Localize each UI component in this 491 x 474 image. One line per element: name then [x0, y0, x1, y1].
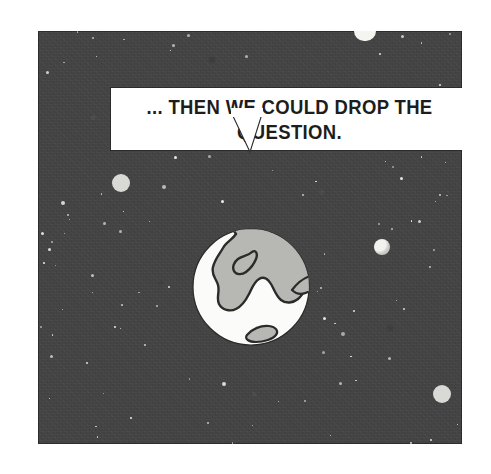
star [341, 332, 345, 336]
star [40, 326, 42, 328]
star [49, 398, 50, 399]
star [121, 304, 123, 306]
star [221, 200, 224, 203]
star [149, 221, 150, 222]
star [388, 357, 391, 360]
star [91, 274, 94, 277]
star [378, 223, 380, 225]
star [162, 185, 166, 189]
planet-lower-right [433, 385, 451, 403]
star [433, 249, 435, 251]
star [379, 53, 381, 55]
star [457, 424, 458, 425]
star [401, 35, 404, 38]
star [232, 442, 233, 443]
star [123, 211, 124, 212]
star [439, 194, 441, 196]
speech-balloon: ... THEN WE COULD DROP THE QUESTION. [110, 87, 462, 151]
earth-globe [192, 228, 310, 346]
star [315, 181, 316, 182]
star [119, 230, 122, 233]
star [429, 266, 431, 268]
star [168, 286, 170, 288]
star [95, 426, 96, 427]
star [334, 323, 335, 324]
star [130, 417, 132, 419]
planet-right [374, 239, 390, 255]
star [187, 34, 190, 37]
star [43, 262, 45, 264]
star [77, 31, 78, 32]
star [172, 44, 175, 47]
star [400, 177, 403, 180]
star [330, 435, 331, 436]
star [222, 382, 226, 386]
comic-root: ... THEN WE COULD DROP THE QUESTION. [0, 0, 491, 474]
star [323, 317, 326, 320]
star [51, 241, 53, 243]
star [462, 225, 463, 226]
star [421, 156, 422, 157]
star [385, 161, 386, 162]
star [41, 232, 44, 235]
star [445, 162, 446, 163]
star [446, 195, 447, 196]
star [411, 220, 412, 221]
star [174, 156, 177, 159]
star [50, 355, 53, 358]
star [62, 309, 63, 310]
star [396, 300, 397, 301]
star [353, 310, 355, 312]
star [97, 436, 98, 437]
star [69, 219, 70, 220]
star [324, 253, 325, 254]
star [46, 71, 49, 74]
star [350, 356, 351, 357]
star [207, 422, 209, 424]
star [103, 393, 104, 394]
star [101, 193, 102, 194]
star [317, 291, 318, 292]
star [170, 50, 171, 51]
star [320, 287, 322, 289]
star [63, 62, 64, 63]
comic-panel: ... THEN WE COULD DROP THE QUESTION. [38, 31, 462, 444]
star [52, 334, 53, 335]
star [449, 33, 451, 35]
star [252, 425, 253, 426]
star [355, 380, 356, 381]
star [304, 400, 306, 402]
star [272, 170, 273, 171]
star [92, 292, 93, 293]
star [92, 37, 94, 39]
earth-icon [192, 228, 310, 346]
star [64, 233, 65, 234]
star [403, 308, 405, 310]
star [48, 248, 51, 251]
star [138, 292, 139, 293]
star [391, 228, 393, 230]
star [103, 222, 106, 225]
star [208, 155, 211, 158]
star [67, 214, 69, 216]
star [114, 326, 116, 328]
star [61, 201, 65, 205]
star [144, 344, 146, 346]
star [96, 56, 97, 57]
star [55, 265, 56, 266]
star [339, 382, 342, 385]
star [156, 305, 158, 307]
star [418, 220, 421, 223]
star [245, 55, 248, 58]
star [410, 442, 412, 444]
star [278, 401, 279, 402]
star [322, 351, 325, 354]
speech-balloon-text: ... THEN WE COULD DROP THE QUESTION. [138, 94, 442, 144]
star [430, 439, 432, 441]
star [120, 328, 121, 329]
planet-left [112, 174, 130, 192]
star [392, 166, 394, 168]
star [421, 42, 422, 43]
star [189, 378, 190, 379]
star [86, 362, 88, 364]
